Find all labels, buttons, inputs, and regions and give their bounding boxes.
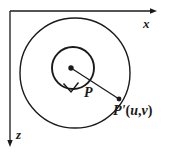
point-p-prime-label: P'(u,v) [113,104,152,118]
center-dot-icon [68,65,73,70]
x-axis-group [10,8,157,13]
p-prime-paren-close: ) [148,103,153,118]
p-prime-u: u [130,103,138,118]
arrow-down-icon [7,140,12,147]
outer-dot-icon [117,97,122,102]
z-axis-label: z [16,128,21,141]
figure-container: x z P P'(u,v) [0,0,171,153]
arrow-right-icon [150,8,157,13]
p-prime-base: P' [113,103,125,118]
x-axis-label: x [143,17,150,30]
z-axis-group [7,11,12,147]
point-p-label: P [84,86,93,100]
